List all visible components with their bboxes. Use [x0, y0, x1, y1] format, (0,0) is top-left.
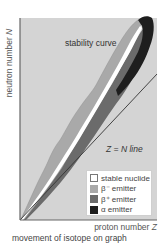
legend-item-alpha: α emitter [90, 205, 151, 216]
legend-label: β⁺ emitter [101, 195, 136, 204]
zn-line-label: Z = N line [106, 144, 143, 154]
alpha-swatch-icon [90, 206, 98, 214]
figure-caption: movement of isotope on graph [12, 233, 127, 243]
x-axis-label-var: Z [152, 222, 157, 232]
y-axis-label-text: neutron number [4, 35, 14, 97]
beta-plus-swatch-icon [90, 195, 98, 203]
y-axis-label: neutron number N [4, 18, 14, 108]
legend-label: β⁻ emitter [101, 184, 136, 193]
legend-label: α emitter [101, 205, 132, 214]
y-axis-label-var: N [4, 29, 14, 35]
stability-curve-label: stability curve [65, 38, 117, 48]
x-axis-label-text: proton number [94, 222, 152, 232]
legend-item-beta-minus: β⁻ emitter [90, 184, 151, 195]
legend-item-beta-plus: β⁺ emitter [90, 194, 151, 205]
legend: stable nuclide β⁻ emitter β⁺ emitter α e… [86, 170, 152, 216]
legend-label: stable nuclide [101, 174, 150, 183]
legend-item-stable: stable nuclide [90, 173, 151, 184]
stable-swatch-icon [90, 174, 98, 182]
beta-minus-swatch-icon [90, 185, 98, 193]
x-axis-label: proton number Z [94, 222, 157, 232]
